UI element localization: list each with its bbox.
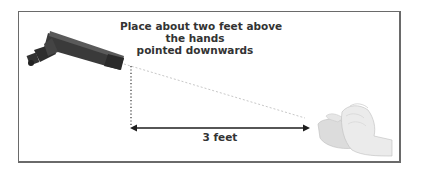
caption-line: the hands <box>120 32 270 44</box>
distance-label: 3 feet <box>190 131 250 143</box>
instruction-caption: Place about two feet above the hands poi… <box>120 20 270 56</box>
beam-diagonal-line <box>124 64 305 118</box>
caption-line: Place about two feet above <box>120 20 270 32</box>
lamp-device-icon <box>27 31 124 70</box>
hands-icon <box>318 104 392 156</box>
caption-line: pointed downwards <box>120 44 270 56</box>
